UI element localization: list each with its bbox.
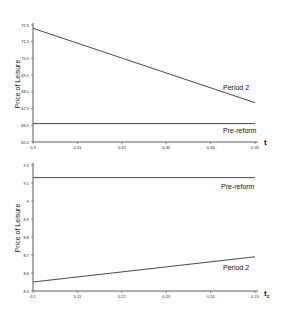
y-tick-label: 8.6 [23, 271, 29, 276]
y-tick-label: 8.8 [23, 235, 29, 240]
y-tick-label: 8.5 [23, 289, 29, 294]
y-tick-label: 8.9 [23, 217, 29, 222]
bottom-y-tick-labels: 9.2 9.1 9 8.9 8.8 8.7 8.6 8.5 [23, 163, 29, 294]
series-label-pre-reform: Pre-reform [221, 183, 255, 190]
top-chart: 72.5 71.5 70.5 69.5 68.5 67.5 66.5 65.5 … [14, 23, 267, 151]
x-tick-label: 0.31 [74, 145, 83, 150]
y-tick-label: 66.5 [21, 123, 30, 128]
top-x-tick-labels: 0.3 0.31 0.32 0.33 0.34 0.35 [30, 145, 259, 150]
x-tick-label: 0.32 [118, 145, 127, 150]
y-tick-label: 8.7 [23, 253, 29, 258]
y-tick-label: 65.5 [21, 140, 30, 145]
top-y-tick-labels: 72.5 71.5 70.5 69.5 68.5 67.5 66.5 65.5 [21, 23, 30, 145]
x-tick-label: 0.11 [74, 294, 82, 299]
y-tick-label: 67.5 [21, 106, 30, 111]
x-tick-label: 0.1 [30, 294, 36, 299]
y-tick-label: 9 [27, 199, 30, 204]
series-label-pre-reform: Pre-reform [223, 127, 257, 134]
y-axis-title: Price of Leisure [14, 204, 21, 253]
y-tick-label: 9.2 [23, 163, 29, 168]
y-tick-label: 68.5 [21, 89, 30, 94]
x-tick-label: 0.35 [251, 145, 260, 150]
bottom-x-tick-labels: 0.1 0.11 0.12 0.13 0.14 0.15 [30, 294, 259, 299]
y-tick-label: 9.1 [23, 181, 29, 186]
x-tick-label: 0.34 [207, 145, 216, 150]
x-tick-label: 0.15 [251, 294, 260, 299]
x-tick-label: 0.14 [207, 294, 216, 299]
x-tick-label: 0.3 [30, 145, 36, 150]
x-axis-variable-label: t [264, 138, 267, 147]
x-tick-label: 0.33 [162, 145, 171, 150]
y-axis-title: Price of Leisure [14, 60, 21, 109]
bottom-chart: 9.2 9.1 9 8.9 8.8 8.7 8.6 8.5 0.1 0.11 0… [14, 163, 270, 300]
y-tick-label: 71.5 [21, 39, 30, 44]
x-tick-label: 0.12 [118, 294, 127, 299]
x-axis-variable-label: tc [264, 289, 270, 299]
figure: 72.5 71.5 70.5 69.5 68.5 67.5 66.5 65.5 … [0, 0, 283, 317]
series-line-period-2 [33, 28, 255, 102]
series-label-period-2: Period 2 [223, 84, 249, 91]
y-tick-label: 70.5 [21, 56, 30, 61]
y-tick-label: 72.5 [21, 23, 30, 28]
series-label-period-2: Period 2 [223, 264, 249, 271]
x-tick-label: 0.13 [162, 294, 171, 299]
y-tick-label: 69.5 [21, 73, 30, 78]
series-line-period-2 [33, 257, 255, 282]
